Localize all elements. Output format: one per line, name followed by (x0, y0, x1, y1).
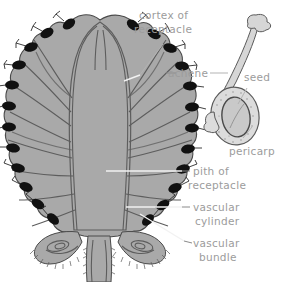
calyx-group (30, 232, 170, 282)
label-pith-of-receptacle-line2: receptacle (188, 179, 246, 191)
peduncle (86, 236, 111, 282)
sepal-left (34, 232, 82, 265)
label-cortex-of-receptacle-line1: cortex of (139, 9, 188, 21)
achene (185, 123, 206, 132)
achene (183, 81, 204, 90)
label-cortex-of-receptacle-line2: receptacle (134, 23, 192, 35)
label-vascular-cylinder-line2: cylinder (195, 215, 240, 227)
label-achene: achene (168, 67, 208, 79)
sepal-right (118, 232, 166, 265)
achene (0, 80, 19, 89)
leader-vascular-bundle-dash (184, 241, 192, 243)
label-pericarp: pericarp (229, 145, 275, 157)
label-vascular-bundle-line1: vascular (193, 237, 240, 249)
label-seed: seed (244, 71, 270, 83)
label-vascular-cylinder-line1: vascular (193, 201, 240, 213)
strawberry-section (0, 11, 206, 282)
label-vascular-bundle-line2: bundle (199, 251, 237, 263)
pith-of-receptacle-shape (69, 22, 131, 230)
label-pith-of-receptacle-line1: pith of (193, 165, 229, 177)
strawberry-diagram: cortex of receptacle achene seed pericar… (0, 0, 294, 282)
